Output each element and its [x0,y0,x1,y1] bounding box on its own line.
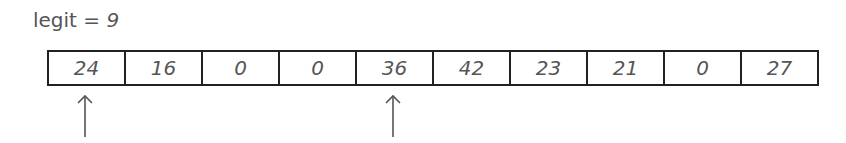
up-arrow-icon [385,94,401,138]
array-cell-3: 0 [280,52,357,84]
array-cell-9: 27 [742,52,817,84]
array-cell-8: 0 [665,52,742,84]
variable-value: 9 [106,8,119,32]
variable-label: legit = 9 [33,8,119,32]
array-cell-6: 23 [511,52,588,84]
array-cell-5: 42 [434,52,511,84]
array-cell-2: 0 [203,52,280,84]
array-cell-4: 36 [357,52,434,84]
variable-name: legit [33,8,77,32]
array-cell-1: 16 [126,52,203,84]
array: 24 16 0 0 36 42 23 21 0 27 [47,50,819,86]
array-cell-7: 21 [588,52,665,84]
array-cell-0: 24 [49,52,126,84]
equals-sign: = [83,8,100,32]
up-arrow-icon [77,94,93,138]
